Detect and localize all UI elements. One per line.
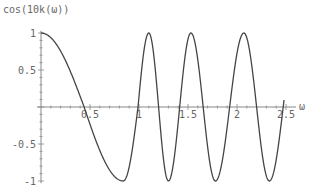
x-tick-label: 2.5 bbox=[277, 109, 295, 120]
y-tick-label: -0.5 bbox=[12, 139, 36, 150]
y-axis-title: cos(10k(ω)) bbox=[3, 4, 69, 15]
y-tick-label: -1 bbox=[24, 176, 36, 187]
plot-area: cos(10k(ω)) 0.511.522.510.5-0.5-1 ω bbox=[0, 0, 314, 195]
y-tick-label: 0.5 bbox=[18, 65, 36, 76]
x-tick-label: 0.5 bbox=[81, 109, 99, 120]
y-tick-label: 1 bbox=[30, 28, 36, 39]
x-tick-label: 2 bbox=[234, 109, 240, 120]
x-axis-label: ω bbox=[299, 101, 305, 112]
x-tick-label: 1.5 bbox=[179, 109, 197, 120]
